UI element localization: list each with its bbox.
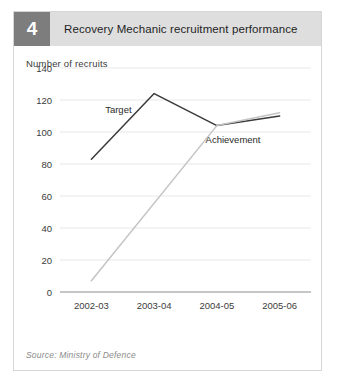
y-tick-label: 120	[36, 95, 52, 106]
line-chart: 020406080100120140 2002-032003-042004-05…	[14, 46, 323, 336]
x-tick-label: 2002-03	[74, 300, 109, 311]
figure-title: Recovery Mechanic recruitment performanc…	[50, 12, 321, 46]
data-series	[91, 94, 279, 281]
source-note: Source: Ministry of Defence	[26, 350, 136, 360]
x-tick-label: 2004-05	[199, 300, 234, 311]
y-tick-label: 140	[36, 63, 52, 74]
plot-body: Number of recruits 020406080100120140 20…	[14, 46, 321, 370]
y-axis-tick-labels: 020406080100120140	[36, 63, 52, 298]
series-annotation: Achievement	[206, 134, 261, 145]
y-tick-label: 20	[41, 255, 52, 266]
figure-container: 4 Recovery Mechanic recruitment performa…	[13, 11, 322, 371]
figure-header: 4 Recovery Mechanic recruitment performa…	[14, 12, 321, 46]
y-tick-label: 100	[36, 127, 52, 138]
figure-number-badge: 4	[14, 12, 50, 46]
x-tick-label: 2003-04	[137, 300, 172, 311]
gridlines	[60, 68, 311, 292]
y-tick-label: 0	[47, 287, 52, 298]
x-tick-label: 2005-06	[262, 300, 297, 311]
series-annotation: Target	[105, 104, 132, 115]
series-annotations: TargetAchievement	[105, 104, 261, 145]
y-tick-label: 60	[41, 191, 52, 202]
y-tick-label: 80	[41, 159, 52, 170]
chart-area: 020406080100120140 2002-032003-042004-05…	[14, 46, 323, 336]
x-axis-tick-labels: 2002-032003-042004-052005-06	[74, 300, 297, 311]
y-tick-label: 40	[41, 223, 52, 234]
